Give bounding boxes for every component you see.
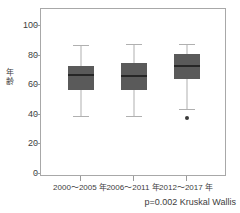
y-axis-label-char-1: 年 [4,68,16,77]
box-rect [68,66,94,90]
whisker-cap-lower [73,116,89,117]
x-tick-label-1: 2000〜2005 年 [53,183,107,193]
y-axis-label: 年 齢 [4,68,16,86]
x-tick-mark-2 [133,176,134,181]
x-tick-label-3: 2012〜2017 年 [159,183,213,193]
box-plot-group-1 [59,9,103,175]
whisker-cap-lower [126,116,142,117]
median-line [174,65,200,67]
whisker-cap-upper [73,45,89,46]
median-line [68,74,94,76]
median-line [121,75,147,77]
box-plot-group-3 [165,9,209,175]
whisker-cap-upper [126,44,142,45]
outlier-point [185,116,189,120]
box-plot-group-2 [112,9,156,175]
box-plot-figure: 年 齢 0 20 40 60 80 100 2000〜2005 年 2006〜2… [0,0,240,213]
y-axis-tick-labels: 0 20 40 60 80 100 [16,0,38,213]
whisker-cap-upper [179,44,195,45]
x-tick-label-2: 2006〜2011 年 [106,183,159,193]
statistic-annotation: p=0.002 Kruskal Wallis [145,197,236,207]
x-tick-mark-3 [186,176,187,181]
x-tick-mark-1 [80,176,81,181]
whisker-cap-lower [179,109,195,110]
y-axis-label-char-2: 齢 [4,77,16,86]
plot-area [40,8,226,176]
